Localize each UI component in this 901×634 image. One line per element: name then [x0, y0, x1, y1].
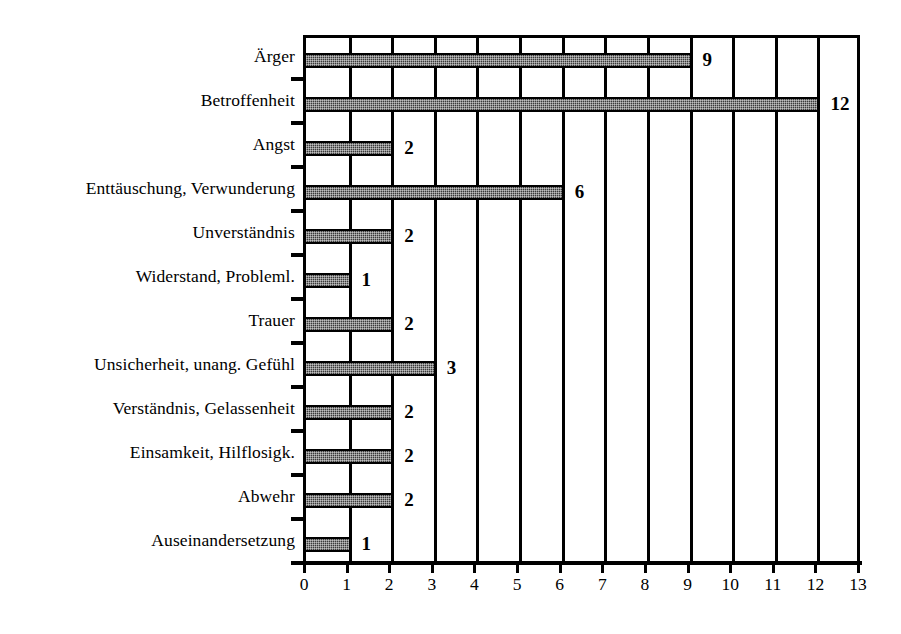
plot-area: 9122621232221 [303, 35, 860, 563]
x-axis-tick-label: 3 [417, 576, 447, 594]
x-axis-tick [516, 563, 519, 573]
y-axis-tick [291, 429, 303, 433]
category-label: Abwehr [0, 488, 295, 506]
category-label: Enttäuschung, Verwunderung [0, 180, 295, 198]
y-axis-tick [291, 517, 303, 521]
category-label: Widerstand, Probleml. [0, 268, 295, 286]
x-axis-tick-label: 7 [587, 576, 617, 594]
y-axis-tick [291, 253, 303, 257]
x-axis-tick-label: 8 [630, 576, 660, 594]
bar-value-label: 6 [575, 182, 585, 201]
category-label: Unverständnis [0, 224, 295, 242]
bar [306, 537, 349, 552]
gridline-x-5 [519, 38, 522, 563]
y-axis-tick [291, 561, 303, 565]
x-axis-tick [346, 563, 349, 573]
x-axis-tick [388, 563, 391, 573]
category-label: Trauer [0, 312, 295, 330]
x-axis-tick [644, 563, 647, 573]
bar [306, 449, 391, 464]
y-axis-tick [291, 341, 303, 345]
category-label: Auseinandersetzung [0, 532, 295, 550]
category-label: Angst [0, 136, 295, 154]
y-axis-tick [291, 209, 303, 213]
x-axis-tick [601, 563, 604, 573]
x-axis-tick-label: 0 [289, 576, 319, 594]
category-label: Einsamkeit, Hilflosigk. [0, 444, 295, 462]
category-label: Verständnis, Gelassenheit [0, 400, 295, 418]
gridline-x-8 [647, 38, 650, 563]
x-axis-tick [431, 563, 434, 573]
bar-value-label: 12 [830, 94, 849, 113]
bar [306, 141, 391, 156]
gridline-x-9 [690, 38, 693, 563]
horizontal-bar-chart: ÄrgerBetroffenheitAngstEnttäuschung, Ver… [0, 0, 901, 634]
x-axis-tick-label: 4 [459, 576, 489, 594]
x-axis-tick-label: 2 [374, 576, 404, 594]
gridline-x-3 [434, 38, 437, 563]
x-axis-tick [814, 563, 817, 573]
x-axis-tick [857, 563, 860, 573]
gridline-x-11 [775, 38, 778, 563]
bar [306, 493, 391, 508]
x-axis-tick [772, 563, 775, 573]
category-label: Unsicherheit, unang. Gefühl [0, 356, 295, 374]
bar-value-label: 3 [447, 358, 457, 377]
x-axis-tick [687, 563, 690, 573]
category-label: Betroffenheit [0, 92, 295, 110]
bar [306, 405, 391, 420]
x-axis-tick-label: 5 [502, 576, 532, 594]
bar-value-label: 2 [404, 138, 414, 157]
gridline-x-6 [562, 38, 565, 563]
gridline-x-7 [604, 38, 607, 563]
bar [306, 273, 349, 288]
bar-value-label: 2 [404, 226, 414, 245]
bar [306, 229, 391, 244]
bar-value-label: 9 [703, 50, 713, 69]
x-axis-tick-label: 13 [843, 576, 873, 594]
y-axis-tick [291, 385, 303, 389]
x-axis-tick-label: 10 [715, 576, 745, 594]
category-label: Ärger [0, 48, 295, 66]
bar [306, 53, 690, 68]
bar [306, 317, 391, 332]
gridline-x-12 [817, 38, 820, 563]
x-axis-tick-label: 11 [758, 576, 788, 594]
y-axis-tick [291, 297, 303, 301]
y-axis-tick [291, 473, 303, 477]
bar [306, 97, 817, 112]
bar-value-label: 2 [404, 314, 414, 333]
x-axis-tick [729, 563, 732, 573]
x-axis-tick [559, 563, 562, 573]
gridline-x-2 [391, 38, 394, 563]
x-axis-tick-label: 6 [545, 576, 575, 594]
bar-value-label: 1 [362, 270, 372, 289]
category-axis-labels: ÄrgerBetroffenheitAngstEnttäuschung, Ver… [0, 35, 295, 563]
y-axis-tick [291, 77, 303, 81]
x-axis-line [301, 561, 862, 565]
bar-value-label: 2 [404, 446, 414, 465]
bar-value-label: 2 [404, 402, 414, 421]
x-axis-tick-label: 12 [800, 576, 830, 594]
bar [306, 185, 562, 200]
gridline-x-10 [732, 38, 735, 563]
y-axis-tick [291, 121, 303, 125]
x-axis-tick-label: 1 [332, 576, 362, 594]
x-axis-tick [303, 563, 306, 573]
x-axis-tick-label: 9 [673, 576, 703, 594]
x-axis-tick [473, 563, 476, 573]
bar-value-label: 2 [404, 490, 414, 509]
gridline-x-4 [476, 38, 479, 563]
bar [306, 361, 434, 376]
bar-value-label: 1 [362, 534, 372, 553]
gridline-x-1 [349, 38, 352, 563]
y-axis-tick [291, 165, 303, 169]
